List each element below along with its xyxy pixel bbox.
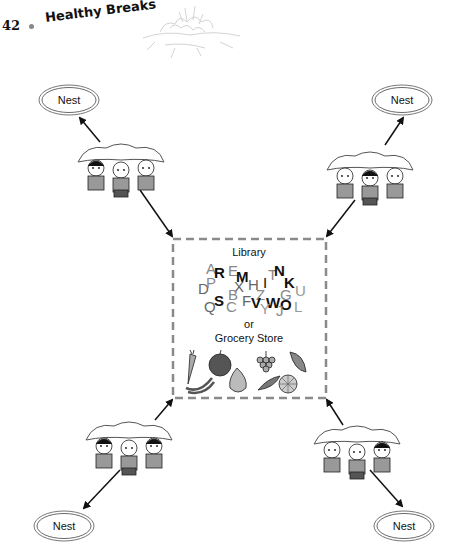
nest-label: Nest [33, 510, 95, 542]
nest-label: Nest [371, 84, 433, 116]
svg-text:J: J [276, 302, 284, 316]
grocery-store-label: Grocery Store [172, 332, 326, 344]
svg-text:F: F [242, 292, 251, 309]
grapes-icon [257, 357, 275, 372]
nest-top-left: Nest [38, 84, 100, 116]
svg-text:Q: Q [204, 298, 216, 315]
svg-text:C: C [226, 298, 237, 315]
bananas-icon [186, 378, 214, 393]
children-under-parachute-icon [76, 140, 166, 202]
foods-icon [182, 348, 318, 396]
carrot-icon [188, 354, 196, 384]
children-under-parachute-icon [312, 422, 402, 484]
or-label: or [172, 318, 326, 330]
letter-jumble-icon: A R E M H I T N K U D P X B Z G S F V W … [196, 260, 306, 316]
nest-bottom-right: Nest [373, 510, 435, 542]
svg-text:U: U [295, 282, 306, 299]
pear-icon [230, 368, 247, 392]
pea-pod-icon [258, 376, 280, 390]
corn-icon [290, 352, 306, 372]
apple-icon [209, 354, 231, 376]
nest-label: Nest [38, 84, 100, 116]
svg-text:L: L [294, 298, 302, 315]
svg-text:Y: Y [260, 300, 270, 316]
library-or-grocery-box: Library A R E M H I T N K U D P X B Z G … [172, 238, 326, 398]
nest-bottom-left: Nest [33, 510, 95, 542]
library-label: Library [172, 246, 326, 258]
children-under-parachute-icon [84, 418, 174, 480]
nest-top-right: Nest [371, 84, 433, 116]
children-under-parachute-icon [325, 148, 415, 210]
nest-label: Nest [373, 510, 435, 542]
svg-text:P: P [206, 274, 216, 291]
